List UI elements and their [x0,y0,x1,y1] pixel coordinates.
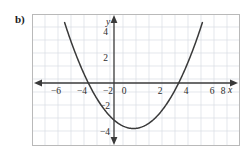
origin-label: 0 [122,86,127,96]
x-tick-label-neg4: −4 [77,86,87,96]
y-tick-label-neg4: −4 [100,127,110,137]
y-axis-label: y [105,17,111,27]
part-label-b: b) [15,13,24,25]
x-tick-label-neg6: −6 [51,86,61,96]
x-tick-label-6: 6 [210,86,215,96]
x-tick-label-8: 8 [221,86,226,96]
y-tick-label-4: 4 [103,27,108,37]
coordinate-graph: x y −6 −4 −2 2 4 6 8 0 4 2 −2 −4 [32,14,240,146]
y-tick-label-2: 2 [103,53,108,63]
x-tick-label-2: 2 [158,86,163,96]
x-axis-label: x [227,85,233,95]
graph-plot-area: x y −6 −4 −2 2 4 6 8 0 4 2 −2 −4 [32,14,240,146]
figure-container: b) [0,0,250,161]
x-tick-label-4: 4 [184,86,189,96]
x-tick-label-neg2: −2 [103,86,113,96]
